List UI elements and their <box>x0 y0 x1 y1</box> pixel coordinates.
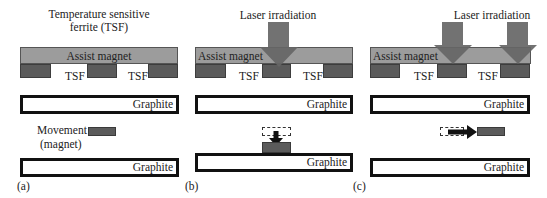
tsf-label: TSF <box>65 70 85 83</box>
panel-caption-c: (c) <box>353 180 366 193</box>
graphite-bottom: Graphite <box>370 158 530 177</box>
tsf-block-right <box>148 64 178 78</box>
tsf-label: TSF <box>478 70 498 83</box>
graphite-label: Graphite <box>484 98 524 111</box>
tsf-block-right <box>323 64 353 78</box>
graphite-label: Graphite <box>307 156 347 169</box>
laser-arrow-icon <box>497 22 539 70</box>
arrow-right-icon <box>448 125 478 139</box>
tsf-label: TSF <box>239 70 259 83</box>
graphite-top: Graphite <box>370 95 530 114</box>
moving-magnet-block <box>88 127 116 136</box>
laser-irradiation-title: Laser irradiation <box>442 9 542 22</box>
assist-magnet-label: Assist magnet <box>198 48 263 64</box>
moving-magnet-block <box>477 127 505 136</box>
moving-magnet-block <box>262 142 291 153</box>
tsf-label: TSF <box>303 70 323 83</box>
assist-magnet-label: Assist magnet <box>373 48 438 64</box>
tsf-block-left <box>20 64 51 78</box>
graphite-bottom: Graphite <box>20 158 179 177</box>
panel-caption-a: (a) <box>17 180 30 193</box>
graphite-label: Graphite <box>307 98 347 111</box>
graphite-label: Graphite <box>133 161 173 174</box>
tsf-label: TSF <box>414 70 434 83</box>
laser-arrow-icon <box>432 22 474 70</box>
assist-magnet-label: Assist magnet <box>21 48 177 64</box>
graphite-top: Graphite <box>20 95 179 114</box>
panel-caption-b: (b) <box>185 180 198 193</box>
laser-irradiation-title: Laser irradiation <box>228 9 328 22</box>
tsf-label: TSF <box>128 70 148 83</box>
graphite-top: Graphite <box>195 95 353 114</box>
tsf-title-line2: ferrite (TSF) <box>24 21 174 34</box>
graphite-label: Graphite <box>484 161 524 174</box>
tsf-block-left <box>195 64 226 78</box>
tsf-title-line1: Temperature sensitive <box>24 8 174 21</box>
graphite-label: Graphite <box>133 98 173 111</box>
tsf-block-left <box>370 64 400 78</box>
graphite-bottom: Graphite <box>195 153 353 172</box>
assist-magnet-bar: Assist magnet <box>20 47 178 64</box>
tsf-block-middle <box>87 64 117 78</box>
movement-label-line1: Movement <box>37 124 87 137</box>
laser-arrow-icon <box>258 22 300 70</box>
movement-label-line2: (magnet) <box>40 138 82 151</box>
